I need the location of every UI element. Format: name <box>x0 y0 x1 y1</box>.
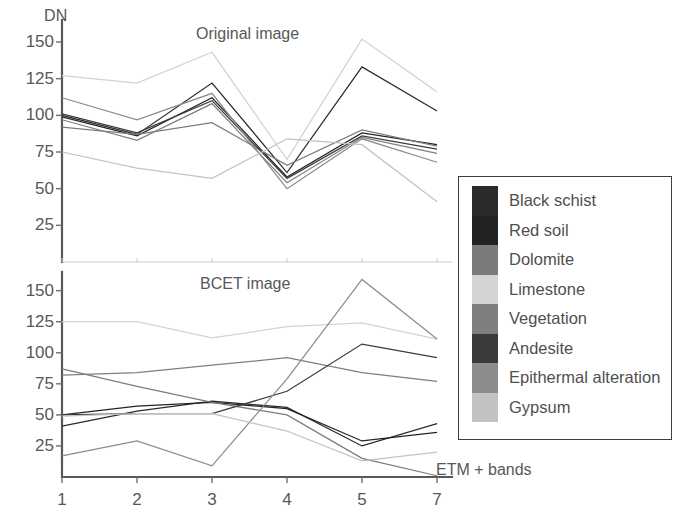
x-axis-label: ETM + bands <box>436 462 532 478</box>
y-tick-label: 25 <box>8 437 54 454</box>
series-line <box>62 414 437 461</box>
legend-swatch-column <box>472 186 498 422</box>
y-tick-label: 150 <box>8 282 54 299</box>
legend-label-column: Black schistRed soilDolomiteLimestoneVeg… <box>509 186 660 422</box>
series-line <box>62 104 437 183</box>
y-tick-label: 125 <box>8 70 54 87</box>
y-tick-label: 50 <box>8 406 54 423</box>
y-tick-label: 25 <box>8 216 54 233</box>
legend-swatch <box>472 393 498 423</box>
x-tick-label: 5 <box>350 491 374 508</box>
legend-entry-label: Epithermal alteration <box>509 363 660 393</box>
y-tick-label: 50 <box>8 180 54 197</box>
figure-root: DN Original image BCET image ETM + bands… <box>0 0 682 528</box>
series-line <box>62 358 437 382</box>
series-line <box>62 98 437 177</box>
plot-canvas <box>0 0 460 528</box>
y-tick-label: 150 <box>8 33 54 50</box>
x-tick-label: 7 <box>425 491 449 508</box>
legend-entry-label: Gypsum <box>509 393 660 423</box>
legend-swatch <box>472 186 498 216</box>
legend-entry-label: Red soil <box>509 216 660 246</box>
legend-swatch <box>472 363 498 393</box>
series-line <box>62 139 437 202</box>
y-tick-label: 75 <box>8 143 54 160</box>
series-line <box>62 67 437 173</box>
legend-inner: Black schistRed soilDolomiteLimestoneVeg… <box>472 186 660 422</box>
series-line <box>62 101 437 179</box>
legend: Black schistRed soilDolomiteLimestoneVeg… <box>458 176 672 440</box>
chart-stack <box>0 0 460 528</box>
legend-entry-label: Limestone <box>509 275 660 305</box>
legend-swatch <box>472 275 498 305</box>
legend-swatch <box>472 334 498 364</box>
x-tick-label: 4 <box>275 491 299 508</box>
series-line <box>62 322 437 339</box>
legend-entry-label: Vegetation <box>509 304 660 334</box>
x-tick-label: 2 <box>125 491 149 508</box>
legend-swatch <box>472 245 498 275</box>
y-tick-label: 100 <box>8 106 54 123</box>
y-axis-label: DN <box>44 8 68 24</box>
legend-entry-label: Dolomite <box>509 245 660 275</box>
panel-title-top: Original image <box>196 26 299 42</box>
panel-title-bottom: BCET image <box>200 276 290 292</box>
y-tick-label: 125 <box>8 313 54 330</box>
legend-entry-label: Black schist <box>509 186 660 216</box>
legend-swatch <box>472 216 498 246</box>
legend-swatch <box>472 304 498 334</box>
legend-entry-label: Andesite <box>509 334 660 364</box>
y-tick-label: 100 <box>8 344 54 361</box>
x-tick-label: 3 <box>200 491 224 508</box>
x-tick-label: 1 <box>50 491 74 508</box>
y-tick-label: 75 <box>8 375 54 392</box>
